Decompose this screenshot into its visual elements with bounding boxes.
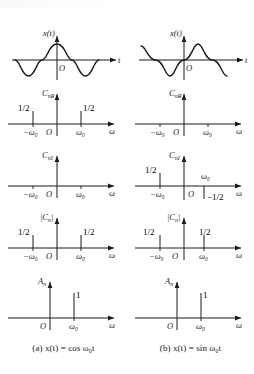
panel-b-real-neg-tick: −ω₀ <box>150 127 165 137</box>
panel-a-waveform: x(t) O t <box>0 14 127 86</box>
panel-a-real-pos-tick: ω₀ <box>76 127 85 137</box>
panel-a-real-neg-tick: −ω₀ <box>23 127 38 137</box>
panel-a-real-pos-value: 1/2 <box>83 103 95 113</box>
panel-a-imag-spectrum: −ω₀ O ω₀ ω CnI <box>0 148 127 210</box>
panel-b-an-origin: O <box>167 321 173 331</box>
panel-a-real-xlabel: ω <box>109 126 115 136</box>
panel-a-imag-origin: O <box>46 189 52 199</box>
panel-b-waveform: x(t) O t <box>127 14 254 86</box>
column-a-cosine: x(t) O t 1/2 1/2 −ω₀ O ω₀ ω <box>0 14 127 340</box>
panel-b-real-xlabel: ω <box>236 126 242 136</box>
panel-b-magnitude-spectrum: 1/2 1/2 −ω₀ O ω₀ ω |Cn| <box>127 210 254 272</box>
scan-artifact <box>0 0 120 8</box>
caption-b: (b) x(t) = sin ω₀t <box>127 343 254 353</box>
panel-b-real-spectrum: −ω₀ O ω₀ ω CnR <box>127 86 254 148</box>
panel-b-mag-pos-value: 1/2 <box>199 227 211 237</box>
panel-a-mag-pos-tick: ω₀ <box>76 251 85 261</box>
panel-a-mag-origin: O <box>46 251 52 261</box>
panel-b-imag-neg-value: 1/2 <box>145 165 157 175</box>
panel-a-waveform-xlabel: t <box>118 55 121 65</box>
panel-b-mag-origin: O <box>172 251 178 261</box>
panel-a-an-xlabel: ω <box>109 320 115 330</box>
panel-a-mag-neg-value: 1/2 <box>18 227 30 237</box>
caption-a-text: (a) x(t) = cos ω₀t <box>32 343 94 353</box>
panel-b-real-ylabel: CnR <box>169 88 182 99</box>
panel-a-an-origin: O <box>40 321 46 331</box>
panel-a-an-value: 1 <box>76 290 81 300</box>
panel-b-mag-pos-tick: ω₀ <box>199 251 208 261</box>
panel-b-an-value: 1 <box>203 290 208 300</box>
caption-b-text: (b) x(t) = sin ω₀t <box>160 343 221 353</box>
panel-b-waveform-ylabel: x(t) <box>169 28 182 38</box>
panel-a-imag-neg-tick: −ω₀ <box>23 189 38 199</box>
column-b-sine: x(t) O t −ω₀ O ω₀ ω CnR <box>127 14 254 340</box>
caption-a: (a) x(t) = cos ω₀t <box>0 343 127 353</box>
panel-a-imag-xlabel: ω <box>109 188 115 198</box>
panel-b-an-ylabel: An <box>164 276 173 287</box>
panel-a-real-spectrum: 1/2 1/2 −ω₀ O ω₀ ω CnR <box>0 86 127 148</box>
panel-a-mag-neg-tick: −ω₀ <box>23 251 38 261</box>
panel-b-imag-neg-tick: −ω₀ <box>150 189 165 199</box>
panel-b-imag-pos-tick: ω₀ <box>201 171 210 181</box>
panel-a-amplitude-spectrum: 1 O ω₀ ω An <box>0 272 127 338</box>
panel-b-imag-xlabel: ω <box>236 188 242 198</box>
panel-b-real-origin: O <box>173 127 179 137</box>
panel-b-waveform-origin: O <box>186 63 192 73</box>
panel-a-real-ylabel: CnR <box>42 88 55 99</box>
panel-b-mag-ylabel: |Cn| <box>167 212 180 223</box>
panel-a-mag-xlabel: ω <box>109 250 115 260</box>
panel-a-waveform-origin: O <box>59 63 65 73</box>
panel-b-an-xlabel: ω <box>236 320 242 330</box>
fourier-spectra-figure: x(t) O t 1/2 1/2 −ω₀ O ω₀ ω <box>0 0 254 374</box>
panel-a-magnitude-spectrum: 1/2 1/2 −ω₀ O ω₀ ω |Cn| <box>0 210 127 272</box>
panel-b-imag-pos-value: −1/2 <box>207 192 224 202</box>
panel-b-imag-origin: O <box>188 189 194 199</box>
panel-b-imag-spectrum: 1/2 −1/2 −ω₀ O ω₀ ω CnI <box>127 148 254 210</box>
panel-a-an-ylabel: An <box>37 276 46 287</box>
panel-b-mag-xlabel: ω <box>236 250 242 260</box>
panel-a-waveform-ylabel: x(t) <box>42 28 55 38</box>
panel-b-mag-neg-value: 1/2 <box>143 227 155 237</box>
panel-b-waveform-xlabel: t <box>245 55 248 65</box>
panel-a-mag-ylabel: |Cn| <box>40 212 53 223</box>
panel-a-real-origin: O <box>46 127 52 137</box>
panel-a-imag-pos-tick: ω₀ <box>76 189 85 199</box>
panel-b-mag-neg-tick: −ω₀ <box>149 251 164 261</box>
panel-b-an-pos-tick: ω₀ <box>196 321 205 331</box>
panel-a-imag-ylabel: CnI <box>42 150 54 161</box>
panel-b-imag-ylabel: CnI <box>169 150 181 161</box>
panel-b-amplitude-spectrum: 1 O ω₀ ω An <box>127 272 254 338</box>
panel-b-real-pos-tick: ω₀ <box>203 127 212 137</box>
panel-a-real-neg-value: 1/2 <box>18 103 30 113</box>
panel-a-an-pos-tick: ω₀ <box>69 321 78 331</box>
panel-a-mag-pos-value: 1/2 <box>83 227 95 237</box>
